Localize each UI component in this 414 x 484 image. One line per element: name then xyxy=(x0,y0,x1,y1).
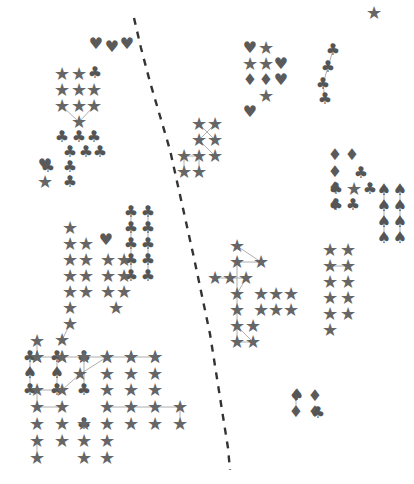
marker-star: ★ xyxy=(207,147,223,165)
marker-star: ★ xyxy=(283,301,299,319)
marker-star: ★ xyxy=(268,301,284,319)
marker-star: ★ xyxy=(86,97,102,115)
marker-star: ★ xyxy=(108,299,124,317)
marker-star: ★ xyxy=(123,415,139,433)
marker-club: ♣ xyxy=(363,181,377,197)
marker-diamond: ♦ xyxy=(289,404,303,420)
marker-club: ♣ xyxy=(79,144,93,160)
marker-star: ★ xyxy=(147,415,163,433)
marker-club: ♣ xyxy=(346,197,360,213)
marker-club: ♣ xyxy=(329,197,343,213)
marker-heart: ♥ xyxy=(99,232,113,248)
marker-star: ★ xyxy=(366,4,382,22)
marker-spade: ♠ xyxy=(393,230,407,246)
marker-club: ♣ xyxy=(88,65,102,81)
marker-club: ♣ xyxy=(318,91,332,107)
marker-star: ★ xyxy=(29,348,45,366)
marker-star: ★ xyxy=(253,253,269,271)
marker-star: ★ xyxy=(191,163,207,181)
marker-diamond: ♦ xyxy=(345,147,359,163)
marker-star: ★ xyxy=(29,449,45,467)
marker-star: ★ xyxy=(172,415,188,433)
marker-club: ♣ xyxy=(93,144,107,160)
marker-star: ★ xyxy=(37,173,53,191)
marker-heart: ♥ xyxy=(105,39,119,55)
marker-star: ★ xyxy=(54,432,70,450)
marker-star: ★ xyxy=(346,180,362,198)
marker-spade: ♠ xyxy=(377,230,391,246)
marker-diamond: ♦ xyxy=(243,72,257,88)
marker-club: ♣ xyxy=(63,174,77,190)
marker-diamond: ♦ xyxy=(328,147,342,163)
glyph-marker-layer: ♥♥♥★★★★★★★★★♣♣♣♣♣♣♣♣♣♣♥★★★★★★★★★★★★★♥♣♣♣… xyxy=(0,0,414,484)
marker-heart: ♥ xyxy=(89,36,103,52)
marker-star: ★ xyxy=(78,283,94,301)
marker-spade: ♠ xyxy=(290,387,304,403)
marker-club: ♣ xyxy=(141,268,155,284)
marker-star: ★ xyxy=(99,449,115,467)
marker-star: ★ xyxy=(245,333,261,351)
marker-club: ♣ xyxy=(326,42,340,58)
scatter-plot-figure: ♥♥♥★★★★★★★★★♣♣♣♣♣♣♣♣♣♣♥★★★★★★★★★★★★★♥♣♣♣… xyxy=(0,0,414,484)
marker-star: ★ xyxy=(258,87,274,105)
marker-star: ★ xyxy=(207,269,223,287)
marker-star: ★ xyxy=(176,163,192,181)
marker-star: ★ xyxy=(322,321,338,339)
marker-heart: ♥ xyxy=(120,36,134,52)
marker-club: ♣ xyxy=(321,59,335,75)
marker-star: ★ xyxy=(229,333,245,351)
marker-heart: ♥ xyxy=(243,104,257,120)
marker-heart: ♥ xyxy=(274,72,288,88)
marker-star: ★ xyxy=(54,348,70,366)
marker-star: ★ xyxy=(76,449,92,467)
marker-star: ★ xyxy=(72,365,88,383)
marker-club: ♣ xyxy=(77,382,91,398)
marker-star: ★ xyxy=(340,305,356,323)
marker-club: ♣ xyxy=(311,405,325,421)
marker-star: ★ xyxy=(54,97,70,115)
